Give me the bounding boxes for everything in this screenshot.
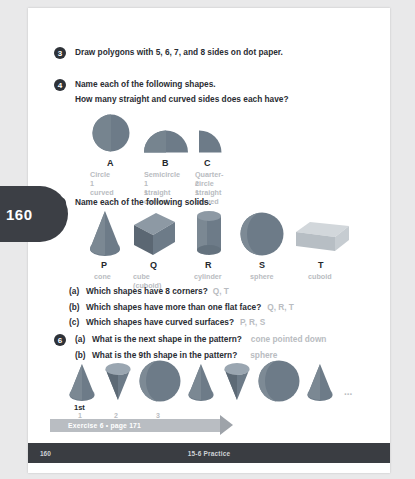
solid-letter-s: S [259, 260, 265, 270]
pattern-label-1st: 1st [74, 403, 85, 412]
pattern-shape-6-sphere [258, 360, 300, 406]
pattern-shape-1-cone-up [68, 363, 96, 405]
solid-letter-p: P [101, 260, 107, 270]
q6-part-b-tag: (b) [75, 349, 92, 362]
question-3: 3 Draw polygons with 5, 6, 7, and 8 side… [54, 46, 283, 59]
q6-part-a-tag: (a) [75, 333, 92, 346]
solid-s-name: sphere [250, 272, 274, 281]
part-b-tag: (b) [69, 301, 86, 314]
shape-letter-c: C [204, 158, 211, 168]
pattern-shape-7-cone-up [306, 363, 334, 405]
pattern-ellipsis: ... [344, 386, 352, 397]
part-b-answer: Q, R, T [267, 301, 294, 314]
question-5-part-c: (c) Which shapes have curved surfaces? P… [69, 316, 294, 329]
question-5-parts: (a) Which shapes have 8 corners? Q, T (b… [69, 285, 294, 329]
pattern-shape-3-sphere [139, 360, 181, 406]
shape-letter-a: A [107, 158, 114, 168]
question-6-part-a: (a) What is the next shape in the patter… [75, 333, 326, 346]
shape-b-name: Semicircle [144, 170, 180, 179]
pattern-label-2: 2 [114, 412, 118, 419]
part-c-question: Which shapes have curved surfaces? [86, 316, 234, 329]
shape-a-detail-1: 1 curved [90, 179, 114, 197]
semicircle-shape [144, 130, 188, 157]
question-4-line-1: Name each of the following shapes. [75, 78, 288, 91]
q6-part-a-answer: cone pointed down [251, 333, 327, 346]
pattern-shape-4-cone-up [187, 363, 215, 405]
exercise-banner-label: Exercise 6 • page 171 [68, 422, 141, 429]
circle-shape [92, 114, 130, 156]
question-4-line-2: How many straight and curved sides does … [75, 93, 288, 106]
part-c-tag: (c) [69, 316, 86, 329]
cuboid-solid [296, 222, 350, 258]
page-number-tab-label: 160 [6, 206, 33, 223]
question-5: 5 Name each of the following solids. [54, 196, 211, 209]
q6-part-a-question: What is the next shape in the pattern? [92, 333, 242, 346]
question-3-number: 3 [54, 47, 66, 59]
page-footer: 160 15-6 Practice [28, 443, 390, 463]
solid-p-name: cone [94, 272, 111, 281]
shape-letter-b: B [162, 158, 169, 168]
banner-arrow-icon [220, 415, 233, 435]
question-4-number: 4 [54, 79, 66, 91]
question-4: 4 Name each of the following shapes. How… [54, 78, 288, 105]
quarter-circle-shape [199, 130, 222, 157]
pattern-label-1: 1 [78, 412, 82, 419]
pattern-shape-2-cone-down [104, 361, 132, 405]
question-5-part-b: (b) Which shapes have more than one flat… [69, 301, 294, 314]
cylinder-solid [196, 211, 222, 260]
question-3-text: Draw polygons with 5, 6, 7, and 8 sides … [75, 46, 283, 59]
solid-letter-q: Q [150, 260, 157, 270]
part-a-answer: Q, T [213, 285, 229, 298]
question-6-number: 6 [54, 334, 66, 346]
cone-solid [88, 210, 122, 260]
question-5-part-a: (a) Which shapes have 8 corners? Q, T [69, 285, 294, 298]
part-c-answer: P, R, S [240, 316, 265, 329]
pattern-shape-5-cone-down [223, 361, 251, 405]
footer-lesson-title: 15-6 Practice [28, 450, 390, 457]
part-b-question: Which shapes have more than one flat fac… [86, 301, 261, 314]
part-a-question: Which shapes have 8 corners? [86, 285, 208, 298]
part-a-tag: (a) [69, 285, 86, 298]
solid-letter-r: R [205, 260, 212, 270]
exercise-banner: Exercise 6 • page 171 [50, 419, 220, 432]
solid-letter-t: T [318, 260, 324, 270]
sphere-solid [240, 212, 284, 260]
solid-t-name: cuboid [308, 272, 332, 281]
pattern-label-3: 3 [156, 412, 160, 419]
shape-a-name: Circle [90, 170, 110, 179]
solid-r-name: cylinder [194, 272, 222, 281]
question-5-text: Name each of the following solids. [75, 196, 211, 209]
page-number-tab: 160 [0, 186, 68, 242]
question-6: 6 (a) What is the next shape in the patt… [54, 333, 326, 361]
workbook-page: 3 Draw polygons with 5, 6, 7, and 8 side… [28, 8, 390, 473]
cube-solid [134, 213, 176, 260]
